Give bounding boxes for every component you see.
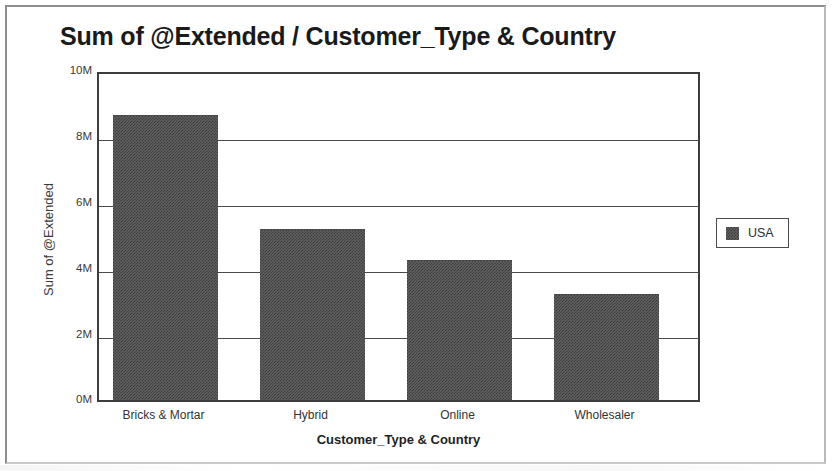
- x-tick-online: Online: [391, 408, 524, 422]
- legend-label-usa: USA: [748, 226, 774, 240]
- y-tick-4m: 4M: [46, 262, 92, 274]
- plot-area: [97, 72, 700, 402]
- y-tick-0m: 0M: [46, 393, 92, 405]
- bar-bricks-and-mortar[interactable]: [113, 115, 218, 400]
- scan-artifact: [0, 465, 832, 471]
- x-tick-hybrid: Hybrid: [244, 408, 377, 422]
- y-tick-8m: 8M: [46, 130, 92, 142]
- y-tick-6m: 6M: [46, 196, 92, 208]
- legend-swatch-usa: [726, 227, 739, 240]
- bar-hybrid[interactable]: [260, 229, 365, 400]
- y-tick-10m: 10M: [46, 64, 92, 76]
- y-axis-tick-labels: 10M 8M 6M 4M 2M 0M: [40, 0, 92, 471]
- chart-screenshot: Sum of @Extended / Customer_Type & Count…: [0, 0, 832, 471]
- x-axis-title: Customer_Type & Country: [97, 432, 700, 447]
- bars-layer: [99, 74, 698, 400]
- y-tick-2m: 2M: [46, 328, 92, 340]
- bar-online[interactable]: [407, 260, 512, 400]
- chart-title: Sum of @Extended / Customer_Type & Count…: [60, 22, 616, 51]
- bar-wholesaler[interactable]: [554, 294, 659, 400]
- legend[interactable]: USA: [716, 218, 789, 248]
- x-tick-wholesaler: Wholesaler: [538, 408, 671, 422]
- x-tick-bricks-and-mortar: Bricks & Mortar: [97, 408, 230, 422]
